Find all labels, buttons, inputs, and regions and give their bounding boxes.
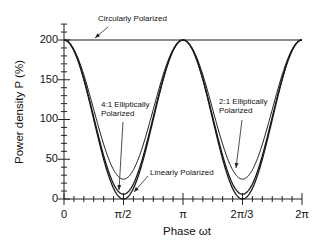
annotation-4-1-elliptically-line1: 4:1 Elliptically (101, 100, 149, 109)
x-axis-title: Phase ωt (163, 225, 211, 237)
x-tick-label-pi: π (163, 208, 203, 220)
annotation-4-1-elliptically-line2: Polarized (101, 109, 134, 118)
y-axis-title: Power density P (%) (13, 57, 25, 167)
y-tick-label-200: 200 (18, 33, 58, 45)
annotation-2-1-elliptically-line1: 2:1 Elliptically (219, 97, 267, 106)
annotation-circularly-polarized: Circularly Polarized (98, 14, 167, 23)
x-tick-label-pi-2: π/2 (103, 208, 143, 220)
annotation-2-1-elliptically-line2: Polarized (219, 106, 252, 115)
y-tick-label-0: 0 (18, 192, 58, 204)
x-tick-label-0: 0 (44, 208, 84, 220)
annotation-linearly-polarized: Linearly Polarized (150, 168, 214, 177)
x-tick-label-2pi-3: 2π/3 (222, 208, 262, 220)
x-tick-label-2pi: 2π (282, 208, 322, 220)
